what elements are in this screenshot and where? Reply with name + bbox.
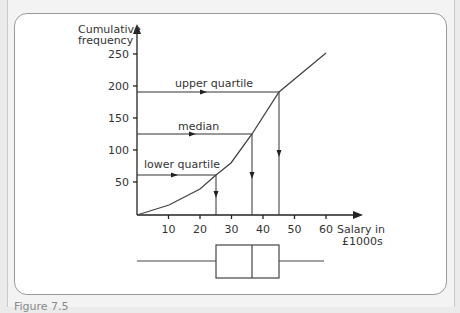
upper-quartile-label: upper quartile [175, 77, 253, 90]
y-tick-label: 150 [108, 112, 129, 125]
median-label: median [178, 120, 219, 133]
x-tick-label: 50 [288, 223, 302, 236]
arrow-right-icon [200, 90, 207, 95]
y-tick-label: 50 [115, 176, 129, 189]
arrow-right-icon [171, 173, 178, 178]
x-axis-arrow-icon [353, 211, 363, 219]
x-tick-label: 60 [319, 223, 333, 236]
figure-caption: Figure 7.5 [14, 301, 69, 312]
lower-quartile-label: lower quartile [144, 158, 220, 171]
quartile-guides [137, 92, 279, 215]
arrow-down-icon [214, 191, 219, 198]
axes [133, 24, 363, 219]
arrow-down-icon [250, 172, 255, 179]
tick-labels: 50 100 150 200 250 10 20 30 40 50 60 Cum… [78, 23, 385, 248]
arrow-down-icon [277, 150, 282, 157]
guide-arrows [171, 90, 282, 199]
interquartile-box [216, 245, 279, 278]
x-axis-title: £1000s [342, 235, 383, 248]
x-tick-label: 20 [193, 223, 207, 236]
x-tick-label: 30 [225, 223, 239, 236]
x-tick-label: 10 [162, 223, 176, 236]
y-tick-label: 250 [108, 48, 129, 61]
box-plot [137, 245, 324, 278]
x-tick-label: 40 [256, 223, 270, 236]
y-tick-label: 200 [108, 80, 129, 93]
y-tick-label: 100 [108, 144, 129, 157]
guide-labels: lower quartile median upper quartile [144, 77, 253, 171]
y-axis-title: frequency [78, 34, 134, 47]
